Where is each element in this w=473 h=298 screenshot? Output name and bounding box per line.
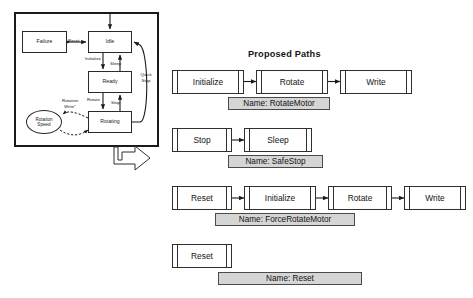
path-step-label: Write (410, 187, 460, 209)
figure-canvas: Failure Idle Ready Rotating Rotation Spe… (0, 0, 473, 298)
path-step-node[interactable]: Initialize (244, 186, 316, 210)
path-name-label: Name: Reset (218, 272, 362, 285)
path-step-node[interactable]: Sleep (244, 128, 312, 152)
path-step-label: Initialize (250, 187, 310, 209)
path-step-node[interactable]: Reset (172, 186, 232, 210)
path-name-label: Name: RotateMotor (228, 97, 330, 110)
path-step-label: Write (346, 71, 406, 93)
path-step-node[interactable]: Stop (172, 128, 232, 152)
path-step-node[interactable]: Initialize (172, 70, 244, 94)
path-step-node[interactable]: Rotate (328, 186, 392, 210)
path-step-node[interactable]: Write (404, 186, 466, 210)
path-step-label: Rotate (334, 187, 386, 209)
node-right-bar-icon (226, 187, 231, 209)
path-step-label: Sleep (250, 129, 306, 151)
node-right-bar-icon (406, 71, 411, 93)
path-step-label: Initialize (178, 71, 238, 93)
path-step-node[interactable]: Reset (172, 244, 232, 268)
node-right-bar-icon (226, 245, 231, 267)
node-right-bar-icon (306, 129, 311, 151)
node-right-bar-icon (322, 71, 327, 93)
path-step-label: Stop (178, 129, 226, 151)
path-step-node[interactable]: Rotate (256, 70, 328, 94)
node-right-bar-icon (226, 129, 231, 151)
node-right-bar-icon (460, 187, 465, 209)
node-right-bar-icon (238, 71, 243, 93)
path-step-label: Reset (178, 245, 226, 267)
path-step-label: Rotate (262, 71, 322, 93)
node-right-bar-icon (386, 187, 391, 209)
path-connector-arrows (0, 0, 473, 298)
path-step-node[interactable]: Write (340, 70, 412, 94)
path-name-label: Name: ForceRotateMotor (215, 213, 355, 226)
path-step-label: Reset (178, 187, 226, 209)
node-right-bar-icon (310, 187, 315, 209)
path-name-label: Name: SafeStop (228, 155, 323, 168)
